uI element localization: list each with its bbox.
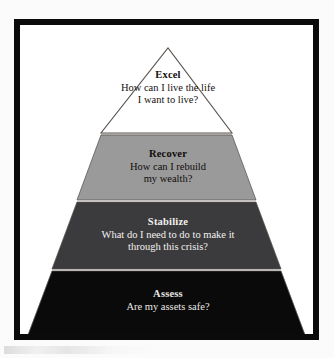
- tier-question-recover-line1: How can I rebuild: [85, 161, 251, 173]
- tier-label-stabilize: Stabilize What do I need to do to make i…: [54, 216, 282, 252]
- tier-title-stabilize: Stabilize: [54, 216, 282, 228]
- tier-label-excel: Excel How can I live the life I want to …: [85, 69, 251, 105]
- tier-label-assess: Assess Are my assets safe?: [42, 288, 294, 313]
- tier-label-recover: Recover How can I rebuild my wealth?: [85, 148, 251, 184]
- tier-title-excel: Excel: [85, 69, 251, 81]
- tier-question-assess-line1: Are my assets safe?: [42, 301, 294, 313]
- scanned-page: Excel How can I live the life I want to …: [0, 0, 334, 358]
- tier-question-stabilize-line1: What do I need to do to make it: [54, 229, 282, 241]
- pyramid-canvas: Excel How can I live the life I want to …: [0, 0, 334, 358]
- tier-question-excel-line2: I want to live?: [85, 94, 251, 106]
- tier-question-recover-line2: my wealth?: [85, 173, 251, 185]
- tier-title-assess: Assess: [42, 288, 294, 300]
- tier-title-recover: Recover: [85, 148, 251, 160]
- tier-question-excel-line1: How can I live the life: [85, 82, 251, 94]
- tier-question-stabilize-line2: through this crisis?: [54, 241, 282, 253]
